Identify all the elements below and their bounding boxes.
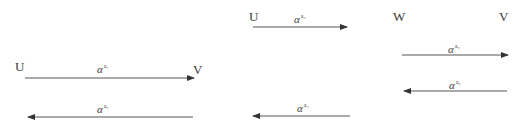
node-u: U [249,10,258,23]
alpha-symbol: α [449,79,455,91]
label-superscript: a₆ [456,79,461,85]
label-superscript: a₅ [455,43,460,49]
alpha-symbol: α [294,13,300,25]
alpha-symbol: α [448,43,454,55]
arrow-label: αa₁ [97,61,109,75]
label-superscript: a₁ [104,63,109,69]
arrow-label: αa₄ [297,100,309,114]
node-u: U [15,60,24,73]
arrow-label: αa₅ [448,41,460,55]
alpha-symbol: α [297,102,303,114]
node-w: W [393,10,405,23]
alpha-symbol: α [97,63,103,75]
label-superscript: a₂ [104,103,109,109]
arrow-label: αa₃ [294,11,306,25]
node-v: V [499,10,508,23]
label-superscript: a₃ [301,13,306,19]
arrow-label: αa₂ [97,101,109,115]
node-v: V [193,63,202,76]
alpha-symbol: α [97,103,103,115]
arrow-label: αa₆ [449,77,461,91]
arrows-layer [0,0,521,126]
label-superscript: a₄ [304,102,309,108]
